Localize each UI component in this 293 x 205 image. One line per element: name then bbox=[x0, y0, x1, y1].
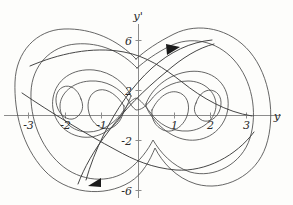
y-tick-label-2: 2 bbox=[124, 85, 132, 98]
x-tick-label--2: -2 bbox=[60, 119, 71, 132]
labels-group: -3 -2 -1 1 2 3 6 2 -2 -6 y y' bbox=[23, 9, 281, 198]
x-axis-label: y bbox=[273, 109, 281, 123]
y-tick-label--2: -2 bbox=[121, 135, 132, 148]
x-tick-label-1: 1 bbox=[171, 119, 178, 132]
trajectory-b bbox=[30, 50, 252, 116]
y-tick-label-6: 6 bbox=[125, 35, 132, 48]
x-tick-label-3: 3 bbox=[243, 119, 250, 132]
x-tick-label--1: -1 bbox=[96, 119, 107, 132]
y-tick-label--6: -6 bbox=[121, 185, 132, 198]
x-tick-label-2: 2 bbox=[206, 119, 214, 132]
phase-portrait-figure: -3 -2 -1 1 2 3 6 2 -2 -6 y y' bbox=[0, 0, 293, 205]
trajectory-d bbox=[78, 44, 214, 184]
x-tick-label--3: -3 bbox=[23, 119, 34, 132]
right-small-loop bbox=[194, 90, 221, 121]
trajectory-c bbox=[86, 40, 212, 180]
orbits-group bbox=[15, 28, 271, 192]
y-axis-label: y' bbox=[132, 9, 143, 23]
phase-portrait-canvas: -3 -2 -1 1 2 3 6 2 -2 -6 y y' bbox=[0, 0, 293, 205]
